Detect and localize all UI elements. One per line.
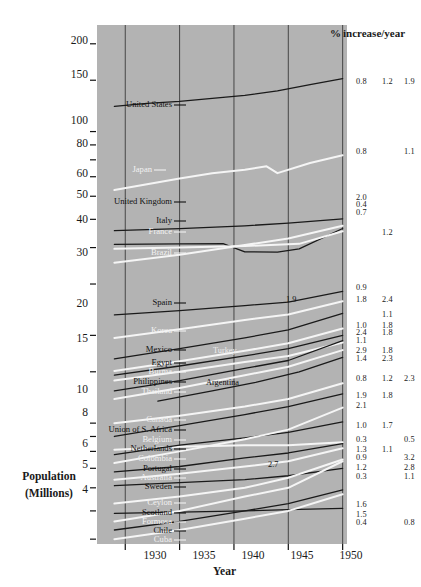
series-label: Canada bbox=[146, 414, 172, 424]
y-tick-label: 60 bbox=[48, 167, 88, 179]
series-label: Italy bbox=[156, 215, 172, 225]
series-label: United States bbox=[126, 99, 172, 109]
y-tick-label: 200 bbox=[48, 34, 88, 46]
series-label: Colombia bbox=[138, 453, 172, 463]
y-tick-label: 80 bbox=[48, 137, 88, 149]
percent-value: 1.2 bbox=[382, 77, 393, 86]
percent-value: 1.8 bbox=[382, 391, 393, 400]
y-axis-title: Population (Millions) bbox=[6, 468, 92, 501]
x-tick-label: 1945 bbox=[278, 549, 326, 561]
percent-value: 2.3 bbox=[382, 354, 393, 363]
series-label: Korea bbox=[151, 325, 172, 335]
percent-value: 1.1 bbox=[404, 472, 415, 481]
percent-value: 1.2 bbox=[382, 374, 393, 383]
percent-value: 0.7 bbox=[356, 208, 367, 217]
percent-value: 2.8 bbox=[404, 463, 415, 472]
y-axis-title-line1: Population bbox=[6, 468, 92, 485]
series-label: Philippines bbox=[133, 376, 172, 386]
percent-value: 0.3 bbox=[356, 435, 367, 444]
percent-value: 2.3 bbox=[404, 374, 415, 383]
series-label: Japan bbox=[132, 164, 152, 174]
percent-value: 1.4 bbox=[356, 354, 367, 363]
x-tick-label: 1950 bbox=[327, 549, 375, 561]
percent-value: 1.1 bbox=[356, 336, 367, 345]
x-tick-label: 1940 bbox=[229, 549, 277, 561]
percent-value: 1.0 bbox=[356, 421, 367, 430]
percent-value: 1.8 bbox=[356, 295, 367, 304]
series-label: Cuba bbox=[154, 534, 172, 544]
y-tick-label: 8 bbox=[48, 406, 88, 418]
percent-value: 0.4 bbox=[356, 518, 367, 527]
x-tick-label: 1930 bbox=[131, 549, 179, 561]
percent-value: 1.2 bbox=[356, 463, 367, 472]
y-tick-label: 30 bbox=[48, 246, 88, 258]
series-label: Netherlands bbox=[130, 443, 172, 453]
series-label: France bbox=[149, 226, 172, 236]
series-label: Brazil bbox=[151, 247, 172, 257]
x-tick-label: 1935 bbox=[180, 549, 228, 561]
y-tick-label: 15 bbox=[48, 332, 88, 344]
percent-value: 0.9 bbox=[356, 283, 367, 292]
y-tick-label: 20 bbox=[48, 297, 88, 309]
inline-annotation: 1.9 bbox=[286, 295, 296, 304]
percent-increase-header: increase/year bbox=[343, 27, 405, 39]
series-label: United Kingdom bbox=[114, 196, 172, 206]
inline-annotation: Turkey bbox=[213, 346, 237, 355]
x-axis-title: Year bbox=[202, 565, 247, 577]
percent-value: 1.9 bbox=[356, 391, 367, 400]
series-label: Burma bbox=[149, 366, 172, 376]
y-tick-label: 40 bbox=[48, 213, 88, 225]
percent-value: 0.8 bbox=[356, 374, 367, 383]
percent-value: 1.6 bbox=[356, 500, 367, 509]
percent-value: 0.3 bbox=[356, 472, 367, 481]
series-label: Mexico bbox=[146, 344, 172, 354]
percent-value: 0.9 bbox=[356, 453, 367, 462]
percent-value: 1.1 bbox=[404, 147, 415, 156]
percent-value: 1.7 bbox=[382, 421, 393, 430]
inline-annotation: Argentina bbox=[206, 378, 239, 387]
percent-value: 0.5 bbox=[404, 435, 415, 444]
percent-value: 2.4 bbox=[382, 295, 393, 304]
series-label: Sweden bbox=[145, 481, 172, 491]
percent-value: 1.9 bbox=[404, 77, 415, 86]
y-axis-title-line2: (Millions) bbox=[6, 485, 92, 502]
series-label: Union of S. Africa bbox=[109, 424, 173, 434]
percent-value: 1.8 bbox=[382, 328, 393, 337]
y-tick-label: 50 bbox=[48, 188, 88, 200]
percent-value: 0.8 bbox=[404, 518, 415, 527]
population-growth-chart: 20015010080605040302015108654 1930193519… bbox=[0, 0, 421, 587]
y-tick-label: 100 bbox=[48, 114, 88, 126]
percent-value: 2.1 bbox=[356, 401, 367, 410]
percent-value: 0.8 bbox=[356, 77, 367, 86]
y-tick-label: 10 bbox=[48, 383, 88, 395]
series-label: Spain bbox=[152, 297, 172, 307]
y-tick-label: 6 bbox=[48, 437, 88, 449]
inline-annotation: 2.7 bbox=[268, 460, 278, 469]
percent-value: 3.2 bbox=[404, 453, 415, 462]
percent-symbol-header: % bbox=[330, 27, 341, 39]
percent-value: 0.8 bbox=[356, 147, 367, 156]
percent-value: 1.1 bbox=[382, 310, 393, 319]
series-label: Ceylon bbox=[147, 497, 172, 507]
percent-value: 1.2 bbox=[382, 228, 393, 237]
series-label: Thailand bbox=[141, 386, 172, 396]
y-tick-label: 150 bbox=[48, 68, 88, 80]
percent-value: 1.1 bbox=[382, 445, 393, 454]
